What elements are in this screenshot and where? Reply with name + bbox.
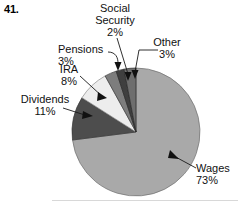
slice-label-social-security-line2: Security xyxy=(95,14,135,26)
slice-value-social-security: 2% xyxy=(82,26,148,38)
slice-value-wages: 73% xyxy=(196,174,242,186)
slice-label-dividends-name: Dividends xyxy=(21,93,69,105)
slice-label-wages-name: Wages xyxy=(196,162,230,174)
slice-value-dividends: 11% xyxy=(10,105,80,117)
slice-value-other: 3% xyxy=(146,48,188,60)
slice-label-other-name: Other xyxy=(153,36,181,48)
slice-label-social-security-line1: Social xyxy=(100,2,130,14)
slice-label-wages: Wages 73% xyxy=(196,162,242,186)
bottom-divider xyxy=(52,200,238,201)
slice-label-ira: IRA 8% xyxy=(52,63,86,87)
slice-label-dividends: Dividends 11% xyxy=(10,93,80,117)
pie-slices xyxy=(72,68,200,196)
slice-label-ira-name: IRA xyxy=(60,63,78,75)
slice-label-other: Other 3% xyxy=(146,36,188,60)
slice-label-social-security: Social Security 2% xyxy=(82,2,148,38)
slice-value-ira: 8% xyxy=(52,75,86,87)
pie-chart-figure: Social Security 2% Other 3% Pensions 3% … xyxy=(0,0,245,203)
slice-label-pensions-name: Pensions xyxy=(58,43,103,55)
